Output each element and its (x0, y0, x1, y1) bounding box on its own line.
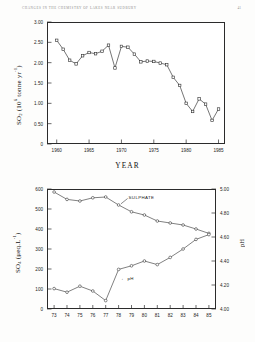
y-tick-label-so2: 1.00 (9, 101, 43, 106)
y-tick-label-so2: 3.00 (9, 20, 43, 25)
x-tick-label-year-short: 83 (181, 313, 186, 318)
x-tick-label-year-short: 79 (129, 313, 134, 318)
running-head: CHANGES IN THE CHEMISTRY OF LAKES NEAR S… (0, 6, 255, 10)
y-tick-label-so2: 0.50 (9, 121, 43, 126)
running-head-title: CHANGES IN THE CHEMISTRY OF LAKES NEAR S… (22, 6, 137, 10)
figure-so2-emissions: SO2 (106 tonne yr-1) YEAR 00.501.001.502… (0, 16, 255, 176)
y-tick-label-so2: 1.50 (9, 81, 43, 86)
y-tick-label-so2: 2.00 (9, 60, 43, 65)
y-tick-label-sulphate: 200 (8, 267, 43, 272)
y-tick-label-sulphate: 600 (8, 187, 43, 192)
x-tick-label-year-short: 74 (64, 313, 69, 318)
x-tick-label-year-short: 73 (52, 313, 57, 318)
y-tick-label-sulphate: 100 (8, 287, 43, 292)
y-tick-label-ph: 4.60 (220, 235, 242, 240)
x-tick-label-year-short: 82 (168, 313, 173, 318)
y-tick-label-ph: 4.40 (220, 259, 242, 264)
page-canvas: CHANGES IN THE CHEMISTRY OF LAKES NEAR S… (0, 0, 255, 342)
x-tick-label-year: 1970 (116, 148, 126, 153)
annotation-ph: ← pH (121, 276, 134, 281)
page-number: 41 (238, 6, 241, 10)
y-tick-label-sulphate: 300 (8, 247, 43, 252)
x-tick-label-year-short: 77 (103, 313, 108, 318)
x-tick-label-year-short: 75 (77, 313, 82, 318)
x-tick-label-year-short: 84 (193, 313, 198, 318)
x-tick-label-year: 1965 (84, 148, 94, 153)
y-tick-label-so2: 2.50 (9, 40, 43, 45)
y-tick-label-ph: 4.20 (220, 283, 242, 288)
figure-sulphate-ph: SO4 (μeq.L-1) pH 01002003004005006004.00… (0, 183, 255, 333)
y-tick-label-so2: 0 (9, 142, 43, 147)
x-tick-label-year-short: 81 (155, 313, 160, 318)
x-tick-label-year: 1985 (213, 148, 223, 153)
y-tick-label-sulphate: 0 (8, 307, 43, 312)
x-tick-label-year-short: 78 (116, 313, 121, 318)
y-tick-label-ph: 4.80 (220, 211, 242, 216)
x-tick-label-year: 1975 (149, 148, 159, 153)
x-tick-label-year-short: 85 (206, 313, 211, 318)
annotation-sulphate: SULPHATE (129, 195, 155, 200)
x-tick-label-year: 1960 (52, 148, 62, 153)
axis-title-year: YEAR (0, 161, 255, 170)
x-tick-label-year-short: 80 (142, 313, 147, 318)
y-tick-label-sulphate: 400 (8, 227, 43, 232)
y-tick-label-ph: 5.00 (220, 187, 242, 192)
x-tick-label-year: 1980 (181, 148, 191, 153)
x-tick-label-year-short: 76 (90, 313, 95, 318)
y-tick-label-ph: 4.00 (220, 307, 242, 312)
y-tick-label-sulphate: 500 (8, 207, 43, 212)
